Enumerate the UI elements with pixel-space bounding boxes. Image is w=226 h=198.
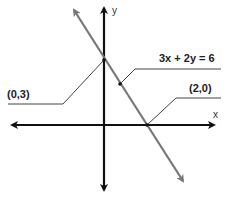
point-on-line (118, 82, 122, 86)
point-label-2-0: (2,0) (189, 82, 212, 94)
equation-label: 3x + 2y = 6 (159, 52, 215, 64)
y-axis-label: y (112, 5, 117, 16)
equation-line (74, 10, 183, 181)
graph-svg: y x 3x + 2y = 6 (0,3) (2,0) (0, 0, 226, 198)
point-2-0 (145, 123, 149, 127)
x-axis-label: x (213, 109, 218, 120)
point-label-0-3: (0,3) (7, 88, 30, 100)
point-0-3 (102, 58, 106, 62)
graph-diagram: y x 3x + 2y = 6 (0,3) (2,0) (0, 0, 226, 198)
